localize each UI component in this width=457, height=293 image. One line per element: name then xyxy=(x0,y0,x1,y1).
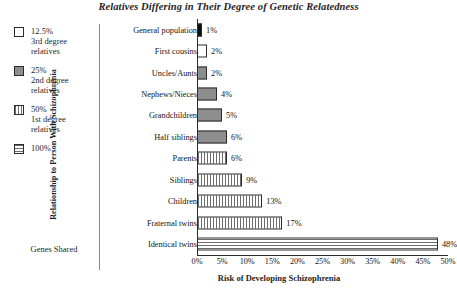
x-axis-tick: 0% xyxy=(192,257,203,266)
page-title: Relatives Differing in Their Degree of G… xyxy=(0,1,457,12)
bar-category-label: Half siblings xyxy=(154,132,197,141)
bar-container: 6% xyxy=(197,130,242,143)
y-axis-title: Relationship to Person With Schizophreni… xyxy=(49,45,58,245)
x-axis-title: Risk of Developing Schizophrenia xyxy=(104,273,454,283)
bar-container: 13% xyxy=(197,195,281,208)
bar-row: Grandchildren5% xyxy=(104,105,454,126)
bar xyxy=(197,45,207,58)
bar-category-label: Identical twins xyxy=(148,240,197,249)
bar-value-label: 1% xyxy=(206,25,217,34)
bar-container: 9% xyxy=(197,173,257,186)
legend-swatch-horizontal-stripe-icon xyxy=(14,144,24,154)
bar xyxy=(197,195,262,208)
bar-value-label: 2% xyxy=(211,47,222,56)
bar-category-label: Uncles/Aunts xyxy=(152,68,197,77)
bar-category-label: Siblings xyxy=(170,175,197,184)
x-axis-tick: 25% xyxy=(315,257,330,266)
x-axis-tick: 10% xyxy=(240,257,255,266)
bar-container: 48% xyxy=(197,238,457,251)
bar xyxy=(197,109,222,122)
bar-row: Siblings9% xyxy=(104,169,454,190)
x-axis-tick: 20% xyxy=(290,257,305,266)
bar-value-label: 9% xyxy=(246,175,257,184)
bar-value-label: 4% xyxy=(221,90,232,99)
legend-swatch-solid-icon xyxy=(14,66,24,76)
bar-category-label: Nephews/Nieces xyxy=(141,90,197,99)
bar xyxy=(197,152,227,165)
bar-row: Children13% xyxy=(104,191,454,212)
plot-area: General population1%First cousins2%Uncle… xyxy=(104,19,454,255)
bar-container: 17% xyxy=(197,216,302,229)
bar-category-label: General population xyxy=(133,25,197,34)
bar xyxy=(197,130,227,143)
x-axis-tick: 50% xyxy=(440,257,455,266)
y-axis-line xyxy=(197,19,198,255)
bar-row: Half siblings6% xyxy=(104,126,454,147)
x-axis-tick: 30% xyxy=(340,257,355,266)
bar-row: Fraternal twins17% xyxy=(104,212,454,233)
legend-divider xyxy=(99,24,100,270)
bar xyxy=(197,216,282,229)
bar-row: Identical twins48% xyxy=(104,233,454,254)
bar xyxy=(197,66,207,79)
x-axis-tick: 40% xyxy=(390,257,405,266)
bar-row: General population1% xyxy=(104,19,454,40)
bar-value-label: 17% xyxy=(286,218,301,227)
bar-row: Nephews/Nieces4% xyxy=(104,83,454,104)
bar-row: Uncles/Aunts2% xyxy=(104,62,454,83)
bar-category-label: First cousins xyxy=(155,47,197,56)
x-axis-tick: 15% xyxy=(265,257,280,266)
bar-row: Parents6% xyxy=(104,148,454,169)
bar-value-label: 2% xyxy=(211,68,222,77)
legend-swatch-vertical-stripe-icon xyxy=(14,105,24,115)
bar-value-label: 6% xyxy=(231,154,242,163)
bar xyxy=(197,88,217,101)
bar-value-label: 5% xyxy=(226,111,237,120)
legend-caption: Genes Shared xyxy=(14,244,94,254)
x-axis-tick: 45% xyxy=(415,257,430,266)
bar-value-label: 48% xyxy=(442,240,457,249)
x-axis-tick: 35% xyxy=(365,257,380,266)
bar-container: 6% xyxy=(197,152,242,165)
bar xyxy=(197,238,438,251)
bar-row: First cousins2% xyxy=(104,40,454,61)
x-axis-tick-labels: 0%5%10%15%20%25%30%35%40%45%50% xyxy=(197,257,448,269)
bar-category-label: Parents xyxy=(173,154,197,163)
bar-container: 5% xyxy=(197,109,237,122)
bar-category-label: Fraternal twins xyxy=(147,218,197,227)
bar-container: 1% xyxy=(197,23,217,36)
bar-value-label: 13% xyxy=(266,197,281,206)
x-axis-line xyxy=(197,255,448,256)
bar-category-label: Children xyxy=(168,197,197,206)
x-axis-tick: 5% xyxy=(217,257,228,266)
bar xyxy=(197,173,242,186)
legend-percent: 12.5% xyxy=(31,26,67,36)
bar-category-label: Grandchildren xyxy=(149,111,197,120)
bar-container: 2% xyxy=(197,66,222,79)
bar-container: 4% xyxy=(197,88,232,101)
bar-container: 2% xyxy=(197,45,222,58)
legend-swatch-empty-icon xyxy=(14,27,24,37)
bar-value-label: 6% xyxy=(231,132,242,141)
